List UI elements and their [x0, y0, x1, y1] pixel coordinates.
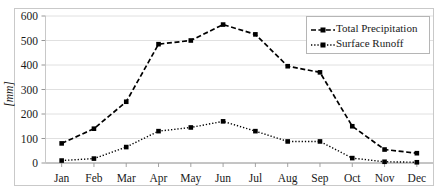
series-line-surface-runoff — [62, 121, 417, 162]
legend-marker-surface-runoff — [310, 37, 336, 49]
data-point — [59, 141, 64, 146]
chart-legend: Total Precipitation Surface Runoff — [306, 16, 430, 54]
legend-marker-total-precipitation — [310, 22, 336, 34]
data-point — [318, 70, 323, 75]
data-point — [350, 124, 355, 129]
legend-item-surface-runoff: Surface Runoff — [310, 35, 426, 50]
data-point — [285, 64, 290, 69]
data-point — [156, 42, 161, 47]
chart-figure: [mm] 0100200300400500600 JanFebMarAprMay… — [0, 0, 439, 195]
data-point — [253, 32, 258, 37]
data-point — [415, 151, 420, 156]
data-point — [189, 38, 194, 43]
data-point — [285, 139, 290, 144]
data-point — [59, 158, 64, 163]
data-point — [124, 145, 129, 150]
legend-label-surface-runoff: Surface Runoff — [336, 37, 403, 49]
data-point — [382, 147, 387, 152]
legend-label-total-precipitation: Total Precipitation — [336, 22, 417, 34]
data-point — [189, 125, 194, 130]
data-point — [92, 156, 97, 161]
data-point — [318, 139, 323, 144]
data-point — [124, 99, 129, 104]
data-point — [415, 160, 420, 165]
data-point — [156, 129, 161, 134]
data-point — [253, 129, 258, 134]
data-point — [221, 119, 226, 124]
data-point — [350, 156, 355, 161]
legend-item-total-precipitation: Total Precipitation — [310, 20, 426, 35]
data-point — [221, 22, 226, 27]
data-point — [92, 126, 97, 131]
data-point — [382, 159, 387, 164]
